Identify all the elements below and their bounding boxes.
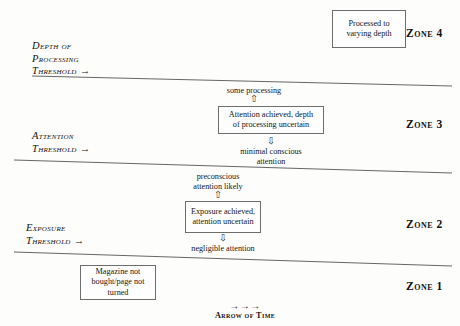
depth-of-processing-threshold-line — [32, 76, 452, 86]
zone-2-node-box: Exposure achieved, attention uncertain — [185, 201, 261, 233]
threshold-label-attention: Attention Threshold → — [32, 130, 90, 155]
zone-label-zone-4: Zone 4 — [406, 27, 443, 39]
down-arrow-icon-negligible: ⇩ — [203, 233, 243, 243]
zone-4-node-box: Processed to varying depth — [332, 10, 406, 48]
up-arrow-icon-preconscious: ⇧ — [198, 190, 238, 200]
processing-zones-diagram: Depth of Processing Threshold → Attentio… — [0, 0, 460, 326]
arrow-of-time-icon: →→→ — [190, 300, 300, 311]
zone-label-zone-2: Zone 2 — [406, 218, 443, 230]
zone-label-zone-1: Zone 1 — [406, 280, 443, 292]
threshold-label-depth-of-processing: Depth of Processing Threshold → — [32, 40, 90, 78]
caption-minimal-conscious-attention: minimal conscious attention — [221, 147, 321, 167]
zone-3-node-box: Attention achieved, depth of processing … — [218, 106, 324, 134]
exposure-threshold-line — [14, 252, 452, 266]
down-arrow-icon-minimal-attention: ⇩ — [251, 136, 291, 146]
caption-negligible-attention: negligible attention — [172, 244, 274, 254]
threshold-label-exposure: Exposure Threshold → — [26, 222, 84, 247]
zone-label-zone-3: Zone 3 — [406, 118, 443, 130]
zone-1-node-box: Magazine not bought/page not turned — [80, 265, 156, 300]
arrow-of-time-label: Arrow of Time — [190, 311, 300, 320]
up-arrow-icon-some-processing: ⇧ — [234, 94, 274, 104]
